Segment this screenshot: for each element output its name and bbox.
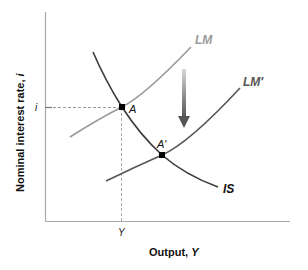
x-axis-title-text: Output, <box>149 246 191 258</box>
arrow-shaft <box>182 69 186 117</box>
shift-arrow <box>178 69 190 128</box>
point-a-marker <box>119 104 125 110</box>
is-label: IS <box>223 182 234 196</box>
axes <box>45 12 290 222</box>
i-tick-label: i <box>35 102 38 113</box>
y-axis-title-var: i <box>14 72 26 76</box>
y-axis-title: Nominal interest rate, i <box>14 72 26 192</box>
is-lm-diagram: A A′ LM LM′ IS i Y Output, Y Nominal int… <box>0 0 308 270</box>
x-axis-title: Output, Y <box>149 246 200 258</box>
point-a-prime-marker <box>159 152 165 158</box>
point-a-label: A <box>128 103 136 115</box>
y-tick-label: Y <box>118 227 126 238</box>
y-axis-title-text: Nominal interest rate, <box>14 76 26 192</box>
is-curve <box>93 52 218 187</box>
lm-label: LM <box>195 33 213 47</box>
lm-curve <box>70 47 191 137</box>
guides <box>45 108 122 222</box>
lm-prime-label: LM′ <box>243 75 264 89</box>
arrow-down-icon <box>178 116 190 128</box>
x-axis-title-var: Y <box>191 246 200 258</box>
point-a-prime-label: A′ <box>156 138 167 150</box>
lm-prime-curve <box>106 88 240 181</box>
